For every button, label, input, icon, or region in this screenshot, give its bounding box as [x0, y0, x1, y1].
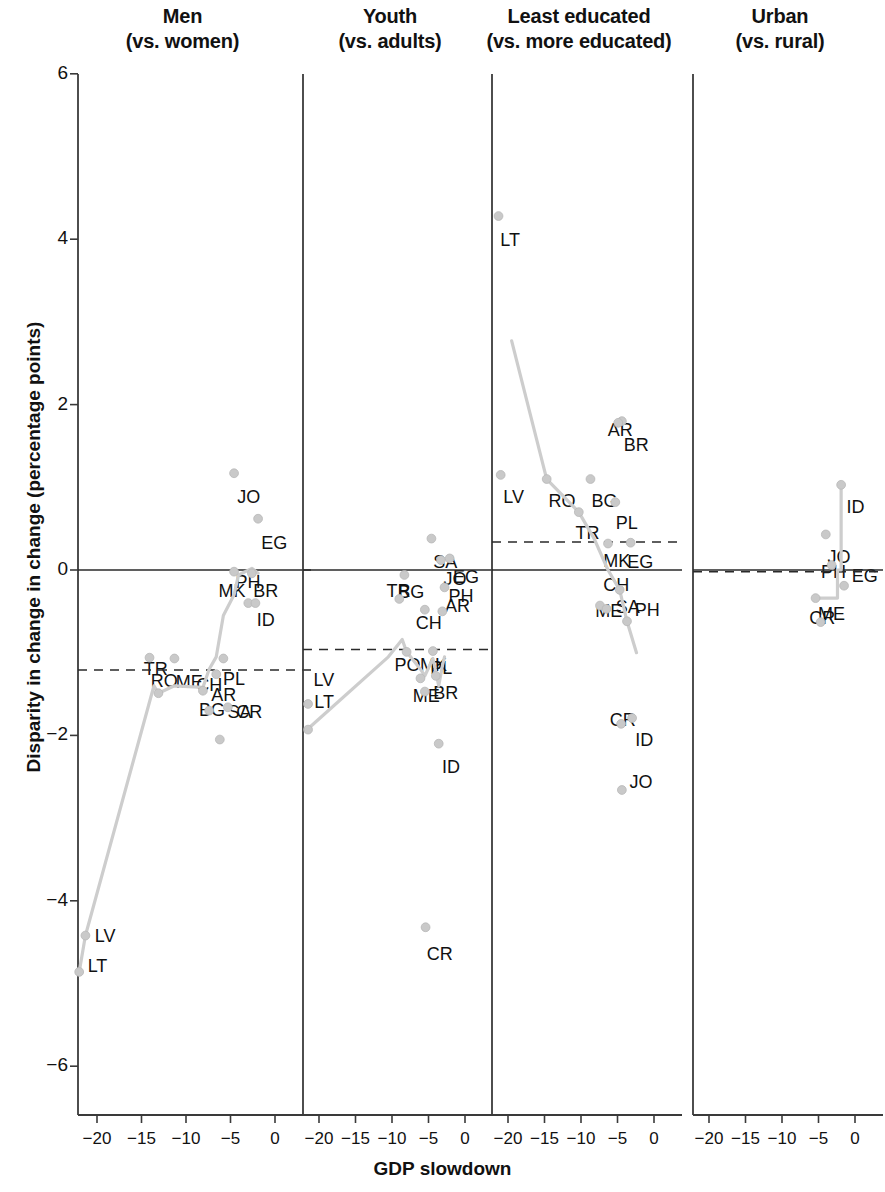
- figure-root: Disparity in change in change (percentag…: [0, 0, 885, 1192]
- plot-canvas: [0, 0, 885, 1192]
